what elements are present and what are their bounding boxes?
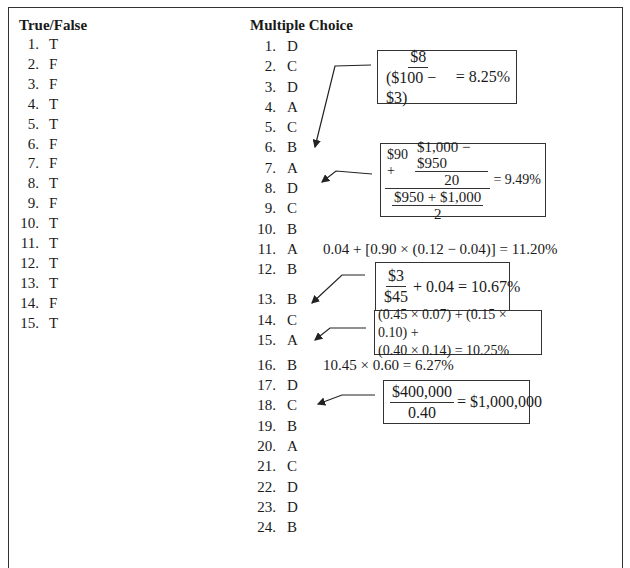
item-answer: F [49,154,57,172]
item-number: 9. [17,194,39,212]
item-answer: B [287,417,301,435]
multiple-choice-item: 17.D [250,376,301,394]
item-answer: D [287,498,301,516]
item-answer: C [287,57,301,75]
multiple-choice-item: 1.D [250,37,301,55]
denominator: $45 [382,287,410,307]
true-false-item: 9.F [17,194,57,212]
item-answer: T [49,234,58,252]
fraction: $400,000 0.40 [390,382,454,423]
item-answer: B [287,356,301,374]
item-number: 5. [250,118,276,136]
outer-numerator: $90 + $1,000 − $950 20 [385,139,490,189]
denominator: 2 [432,206,444,222]
item-number: 14. [17,294,39,312]
item-number: 3. [250,78,276,96]
item-answer: F [49,55,57,73]
numerator: $3 [386,266,406,287]
multiple-choice-item: 16.B [250,356,301,374]
multiple-choice-item: 24.B [250,518,301,536]
item-number: 11. [17,234,39,252]
item-answer: T [49,314,58,332]
item-number: 14. [250,311,276,329]
item-answer: T [49,174,58,192]
answer-key-frame [8,7,623,568]
item-number: 10. [17,214,39,232]
true-false-item: 15.T [17,314,58,332]
item-answer: T [49,95,58,113]
true-false-item: 1.T [17,35,58,53]
item-answer: D [287,179,301,197]
multiple-choice-item: 7.A [250,159,301,177]
item-answer: B [287,518,301,536]
multiple-choice-heading: Multiple Choice [250,16,353,34]
true-false-item: 8.T [17,174,58,192]
item-number: 16. [250,356,276,374]
item-number: 10. [250,220,276,238]
item-answer: B [287,220,301,238]
multiple-choice-item: 18.C [250,396,301,414]
result: = $1,000,000 [457,393,542,411]
multiple-choice-item: 10.B [250,220,301,238]
item-number: 6. [250,138,276,156]
result: = 8.25% [456,68,510,86]
item-answer: T [49,214,58,232]
item-answer: T [49,35,58,53]
item-answer: D [287,376,301,394]
item-number: 18. [250,396,276,414]
item-number: 12. [17,254,39,272]
item-number: 15. [17,314,39,332]
item-number: 15. [250,331,276,349]
calc-box-q7: $90 + $1,000 − $950 20 $950 + $1,000 2 =… [380,143,546,217]
fraction: $3 $45 [382,266,410,307]
true-false-item: 14.F [17,294,57,312]
item-number: 22. [250,478,276,496]
true-false-item: 5.T [17,115,58,133]
multiple-choice-item: 20.A [250,437,301,455]
item-number: 8. [17,174,39,192]
true-false-item: 13.T [17,274,58,292]
item-answer: A [287,240,301,258]
item-number: 1. [17,35,39,53]
multiple-choice-item: 2.C [250,57,301,75]
multiple-choice-item: 15.A [250,331,301,349]
multiple-choice-item: 11.A [250,240,301,258]
multiple-choice-item: 5.C [250,118,301,136]
item-number: 5. [17,115,39,133]
true-false-item: 11.T [17,234,58,252]
item-answer: C [287,118,301,136]
item-answer: C [287,199,301,217]
item-answer: A [287,331,301,349]
true-false-item: 7.F [17,154,57,172]
fraction-outer: $90 + $1,000 − $950 20 $950 + $1,000 2 [385,139,490,222]
item-answer: B [287,290,301,308]
result: + 0.04 = 10.67% [413,278,520,296]
item-answer: D [287,478,301,496]
multiple-choice-item: 8.D [250,179,301,197]
calc-box-q15: (0.45 × 0.07) + (0.15 × 0.10) + (0.40 × … [374,310,542,355]
fraction: $8 ($100 − $3) [384,47,453,108]
item-answer: F [49,75,57,93]
numerator: $950 + $1,000 [392,189,483,206]
multiple-choice-item: 21.C [250,457,301,475]
item-number: 12. [250,260,276,278]
result: = 9.49% [493,172,541,188]
item-answer: D [287,37,301,55]
item-answer: A [287,159,301,177]
item-number: 23. [250,498,276,516]
true-false-item: 6.F [17,135,57,153]
item-number: 17. [250,376,276,394]
item-answer: A [287,98,301,116]
item-answer: B [287,138,301,156]
item-number: 2. [17,55,39,73]
denominator: 20 [442,172,461,188]
item-answer: C [287,396,301,414]
inner-fraction: $1,000 − $950 20 [415,139,488,188]
multiple-choice-item: 3.D [250,78,301,96]
calc-box-q18: $400,000 0.40 = $1,000,000 [383,380,530,424]
item-answer: B [287,260,301,278]
true-false-item: 10.T [17,214,58,232]
item-number: 9. [250,199,276,217]
item-number: 2. [250,57,276,75]
multiple-choice-item: 22.D [250,478,301,496]
